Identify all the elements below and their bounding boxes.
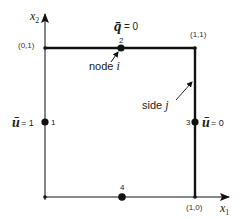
top-bc-symbol: q̄: [114, 18, 122, 34]
node-1: [41, 118, 48, 125]
x1-axis-label: x1: [219, 201, 229, 217]
node-2-label: 2: [119, 36, 124, 45]
corner-dot-top-right: [193, 46, 197, 50]
node-4-label: 4: [120, 183, 125, 192]
node-2: [117, 44, 124, 51]
corner-dot-origin: [43, 195, 47, 199]
node-3: [191, 118, 198, 125]
corner-label-0-1: (0,1): [18, 41, 35, 50]
x2-axis-label: x2: [29, 9, 39, 25]
corner-label-1-1: (1,1): [190, 30, 207, 39]
unit-square-diagram: 1 2 3 4 x2 x1 (0,1) (1,1) (1,0) q̄ = 0 ū…: [0, 0, 244, 219]
side-j-annotation: side j: [142, 98, 169, 112]
node-3-label: 3: [186, 118, 191, 127]
left-bc-value: = 1: [21, 118, 34, 128]
node-i-annotation: node i: [89, 59, 120, 73]
corner-label-1-0: (1,0): [186, 203, 203, 212]
side-j-pointer-arrow: [176, 82, 192, 100]
right-bc-symbol: ū: [202, 115, 210, 130]
top-bc-value: = 0: [124, 21, 139, 32]
left-bc-symbol: ū: [12, 115, 20, 130]
node-4: [118, 193, 126, 201]
node-1-label: 1: [51, 118, 56, 127]
corner-dot-top-left: [43, 46, 47, 50]
corner-dot-bottom-right: [193, 195, 197, 199]
right-bc-value: = 0: [211, 118, 224, 128]
